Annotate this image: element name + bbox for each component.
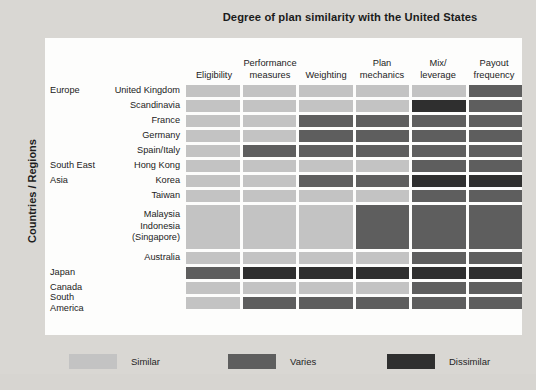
country-label (97, 265, 186, 280)
legend-item: Dissimilar (363, 354, 522, 369)
country-label: Hong Kong (97, 158, 186, 173)
column-header-line: Weighting (298, 70, 354, 82)
heatmap-cell (299, 130, 353, 142)
cell-group (186, 265, 522, 280)
heatmap-cell (243, 267, 297, 279)
heatmap-cell (412, 160, 466, 172)
country-label-line: United Kingdom (115, 85, 180, 97)
country-label-line: Korea (155, 175, 180, 187)
column-header-line: Performance (242, 58, 298, 70)
heatmap-cell (469, 100, 523, 112)
cell-group (186, 203, 522, 250)
region-label (45, 113, 97, 128)
country-label-line: Indonesia (140, 221, 180, 233)
cell-group (186, 250, 522, 265)
heatmap-cell (186, 252, 240, 264)
legend-label: Similar (131, 356, 160, 367)
heatmap-cell (356, 85, 410, 97)
table-row: EuropeUnited Kingdom (45, 83, 522, 98)
heatmap-cell (412, 85, 466, 97)
heatmap-cell (412, 100, 466, 112)
heatmap-cell (243, 85, 297, 97)
heatmap-cell (469, 205, 523, 249)
country-label: France (97, 113, 186, 128)
table-row: France (45, 113, 522, 128)
cell-group (186, 188, 522, 203)
cell-group (186, 113, 522, 128)
heatmap-cell (186, 85, 240, 97)
region-label (45, 98, 97, 113)
heatmap-cell (243, 297, 297, 309)
country-label-line: Taiwan (151, 190, 180, 202)
heatmap-cell (299, 282, 353, 294)
legend-swatch (228, 354, 276, 369)
heatmap-cell (299, 145, 353, 157)
column-header: Performancemeasures (242, 45, 298, 83)
heatmap-cell (412, 267, 466, 279)
heatmap-cell (299, 160, 353, 172)
country-label: Australia (97, 250, 186, 265)
cell-group (186, 295, 522, 310)
column-header-line: Plan (354, 58, 410, 70)
heatmap-cell (356, 115, 410, 127)
table-row: Taiwan (45, 188, 522, 203)
heatmap-cell (469, 115, 523, 127)
cell-group (186, 173, 522, 188)
country-label-line: Scandinavia (130, 100, 180, 112)
heatmap-cell (412, 190, 466, 202)
table-row: Canada (45, 280, 522, 295)
table-row: AsiaKorea (45, 173, 522, 188)
column-header: Eligibility (186, 45, 242, 83)
column-header-line: Payout (466, 58, 522, 70)
heatmap-cell (243, 252, 297, 264)
heatmap-cell (299, 85, 353, 97)
region-label: South America (45, 295, 97, 310)
heatmap-cell (243, 115, 297, 127)
region-label (45, 143, 97, 158)
plot-panel: EligibilityPerformancemeasuresWeightingP… (45, 38, 522, 335)
legend-item: Varies (204, 354, 363, 369)
heatmap-cell (412, 282, 466, 294)
column-header: Payoutfrequency (466, 45, 522, 83)
heatmap-cell (299, 252, 353, 264)
heatmap-cell (412, 130, 466, 142)
heatmap-grid: EuropeUnited KingdomScandinaviaFranceGer… (45, 83, 522, 310)
heatmap-cell (469, 297, 523, 309)
heatmap-cell (412, 252, 466, 264)
cell-group (186, 158, 522, 173)
country-label-line: (Singapore) (132, 232, 180, 244)
cell-group (186, 128, 522, 143)
country-label: Korea (97, 173, 186, 188)
heatmap-cell (243, 145, 297, 157)
heatmap-cell (469, 85, 523, 97)
country-label: Taiwan (97, 188, 186, 203)
country-label-line: Australia (144, 252, 180, 264)
heatmap-cell (299, 205, 353, 249)
heatmap-cell (243, 190, 297, 202)
cell-group (186, 143, 522, 158)
column-header-line: mechanics (354, 70, 410, 82)
heatmap-cell (412, 115, 466, 127)
column-header-line: measures (242, 70, 298, 82)
country-label (97, 280, 186, 295)
heatmap-cell (412, 205, 466, 249)
country-label: MalaysiaIndonesia(Singapore) (97, 203, 186, 250)
legend-swatch (387, 354, 435, 369)
heatmap-cell (356, 100, 410, 112)
heatmap-cell (186, 190, 240, 202)
heatmap-cell (299, 175, 353, 187)
heatmap-cell (356, 175, 410, 187)
table-row: South EastHong Kong (45, 158, 522, 173)
table-row: South America (45, 295, 522, 310)
heatmap-cell (356, 297, 410, 309)
cell-group (186, 83, 522, 98)
heatmap-cell (299, 267, 353, 279)
column-header-line: Mix/ (410, 58, 466, 70)
column-header: Mix/leverage (410, 45, 466, 83)
region-label: Japan (45, 265, 97, 280)
column-header: Weighting (298, 45, 354, 83)
heatmap-cell (469, 282, 523, 294)
legend-swatch (69, 354, 117, 369)
country-label: United Kingdom (97, 83, 186, 98)
heatmap-cell (243, 130, 297, 142)
